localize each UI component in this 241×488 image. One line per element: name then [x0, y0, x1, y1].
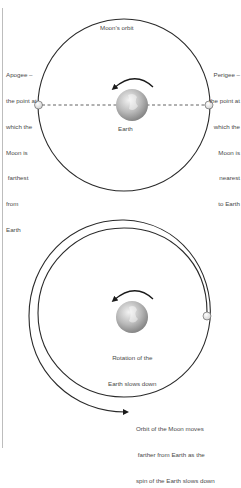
moon-icon: [203, 312, 211, 320]
apogee-label-line: Apogee –: [6, 71, 37, 80]
apogee-label: Apogee – the point at which the Moon is …: [6, 54, 37, 243]
apogee-label-line: which the: [6, 123, 37, 132]
earth-rotation-label-line: Rotation of the: [108, 354, 157, 363]
orbit-change-label-line: spin of the Earth slows down: [136, 477, 215, 486]
orbit-change-label-line: Orbit of the Moon moves: [136, 425, 215, 434]
rotation-arrow-icon: [114, 79, 153, 88]
orbit-change-label-line: farther from Earth as the: [136, 451, 215, 460]
moon-orbit-label: Moon’s orbit: [100, 24, 134, 33]
perigee-label: Perigee – the point at which the Moon is…: [209, 54, 240, 217]
perigee-label-line: the point at: [209, 97, 240, 106]
apogee-label-line: farthest: [6, 174, 37, 183]
earth-label: Earth: [118, 125, 133, 134]
apogee-label-line: from: [6, 200, 37, 209]
perigee-label-line: nearest: [209, 174, 240, 183]
earth-rotation-label: Rotation of the Earth slows down: [108, 337, 157, 397]
perigee-label-line: Moon is: [209, 149, 240, 158]
orbit-change-label: Orbit of the Moon moves farther from Ear…: [136, 408, 215, 488]
rotation-arrow-icon: [114, 291, 153, 300]
apogee-label-line: the point at: [6, 97, 37, 106]
apogee-label-line: Moon is: [6, 149, 37, 158]
earth-rotation-label-line: Earth slows down: [108, 380, 157, 389]
perigee-label-line: Perigee –: [209, 71, 240, 80]
perigee-label-line: to Earth: [209, 200, 240, 209]
apogee-label-line: Earth: [6, 226, 37, 235]
perigee-label-line: which the: [209, 123, 240, 132]
top-diagram: [35, 19, 214, 191]
